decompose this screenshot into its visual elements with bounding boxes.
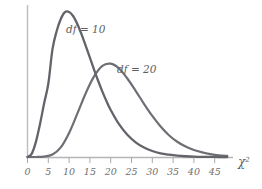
tick-label-0: 0 (24, 166, 30, 177)
plot-area: 0 5 10 15 20 25 30 35 40 45 df = 10 df =… (0, 0, 262, 189)
chi-superscript: 2 (244, 156, 250, 164)
tick-label-45: 45 (208, 166, 221, 177)
tick-label-30: 30 (146, 166, 158, 177)
tick-label-10: 10 (63, 166, 75, 177)
x-axis-tick-labels: 0 5 10 15 20 25 30 35 40 45 (24, 166, 220, 177)
df-20-label: df = 20 (117, 63, 157, 75)
x-axis-ticks (28, 158, 215, 164)
chi-square-distribution-chart: 0 5 10 15 20 25 30 35 40 45 df = 10 df =… (0, 0, 262, 189)
curve-df-10 (28, 11, 228, 157)
curve-df-20 (28, 64, 228, 158)
tick-label-40: 40 (187, 166, 200, 177)
tick-label-5: 5 (45, 166, 51, 177)
tick-label-20: 20 (104, 166, 117, 177)
df-10-label: df = 10 (66, 23, 106, 35)
tick-label-35: 35 (167, 166, 179, 177)
tick-label-25: 25 (124, 166, 137, 177)
x-axis-title: χ2 (237, 155, 250, 169)
tick-label-15: 15 (84, 166, 96, 177)
